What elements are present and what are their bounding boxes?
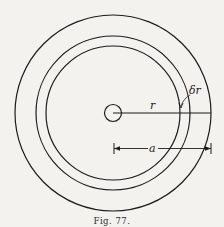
figure-caption: Fig. 77. [94, 216, 131, 226]
label-a: a [149, 142, 156, 155]
dimension-arrow-left-icon [114, 146, 120, 150]
label-delta-r: δr [189, 84, 202, 97]
concentric-circles-diagram: r δr a Fig. 77. [0, 0, 224, 227]
dimension-arrow-right-icon [205, 146, 211, 150]
label-r: r [150, 99, 156, 112]
figure-page: r δr a Fig. 77. [0, 0, 224, 227]
